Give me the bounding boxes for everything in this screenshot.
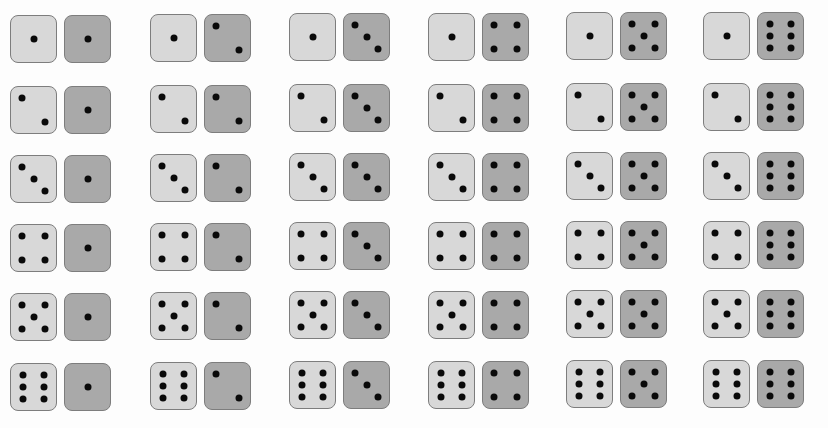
light-die-5 — [566, 290, 613, 338]
dice-pair-1-1 — [10, 15, 114, 65]
pip-icon — [490, 22, 497, 29]
light-die-3 — [428, 153, 475, 201]
pip-icon — [574, 92, 581, 99]
pip-icon — [652, 253, 659, 260]
dark-die-3 — [343, 361, 390, 409]
dice-outcomes-grid — [0, 0, 828, 428]
pip-icon — [490, 323, 497, 330]
pip-icon — [598, 299, 605, 306]
light-die-3 — [703, 152, 750, 200]
pip-icon — [181, 383, 188, 390]
light-die-5 — [703, 290, 750, 338]
pip-icon — [460, 300, 467, 307]
pip-icon — [84, 36, 91, 43]
dark-die-3 — [343, 153, 390, 201]
pip-icon — [490, 116, 497, 123]
pip-icon — [321, 300, 328, 307]
dice-pair-1-6 — [703, 12, 807, 62]
pip-icon — [766, 115, 773, 122]
pip-icon — [640, 104, 647, 111]
pip-icon — [297, 231, 304, 238]
pip-icon — [712, 381, 719, 388]
pip-icon — [375, 185, 382, 192]
pip-icon — [652, 92, 659, 99]
dice-pair-2-4 — [428, 84, 532, 134]
dice-pair-2-3 — [289, 84, 393, 134]
dark-die-3 — [343, 13, 390, 61]
pip-icon — [182, 324, 189, 331]
pip-icon — [321, 323, 328, 330]
pip-icon — [309, 34, 316, 41]
pip-icon — [598, 322, 605, 329]
pip-icon — [652, 369, 659, 376]
pip-icon — [158, 255, 165, 262]
pip-icon — [598, 230, 605, 237]
pip-icon — [490, 370, 497, 377]
pip-icon — [181, 394, 188, 401]
dark-die-5 — [620, 83, 667, 131]
pip-icon — [84, 245, 91, 252]
pip-icon — [298, 382, 305, 389]
dark-die-4 — [482, 361, 529, 409]
dice-pair-3-1 — [10, 155, 114, 205]
pip-icon — [298, 393, 305, 400]
pip-icon — [321, 231, 328, 238]
dark-die-2 — [204, 362, 251, 410]
dice-pair-6-3 — [289, 361, 393, 411]
dice-pair-2-5 — [566, 83, 670, 133]
pip-icon — [652, 392, 659, 399]
pip-icon — [766, 161, 773, 168]
pip-icon — [297, 323, 304, 330]
pip-icon — [363, 312, 370, 319]
pip-icon — [309, 312, 316, 319]
pip-icon — [351, 300, 358, 307]
pip-icon — [652, 161, 659, 168]
dice-pair-1-4 — [428, 13, 532, 63]
dice-pair-5-6 — [703, 290, 807, 340]
pip-icon — [158, 324, 165, 331]
pip-icon — [735, 184, 742, 191]
pip-icon — [766, 299, 773, 306]
pip-icon — [170, 313, 177, 320]
pip-icon — [628, 392, 635, 399]
light-die-6 — [289, 361, 336, 409]
pip-icon — [212, 163, 219, 170]
pip-icon — [460, 116, 467, 123]
pip-icon — [766, 381, 773, 388]
pip-icon — [575, 381, 582, 388]
pip-icon — [297, 300, 304, 307]
pip-icon — [514, 185, 521, 192]
pip-icon — [436, 93, 443, 100]
pip-icon — [652, 115, 659, 122]
pip-icon — [788, 173, 795, 180]
dice-pair-5-3 — [289, 291, 393, 341]
pip-icon — [42, 118, 49, 125]
light-die-1 — [289, 13, 336, 61]
pip-icon — [460, 185, 467, 192]
dice-pair-3-3 — [289, 153, 393, 203]
pip-icon — [735, 253, 742, 260]
pip-icon — [788, 369, 795, 376]
pip-icon — [711, 253, 718, 260]
light-die-4 — [703, 221, 750, 269]
pip-icon — [735, 115, 742, 122]
pip-icon — [723, 33, 730, 40]
pip-icon — [236, 394, 243, 401]
dark-die-2 — [204, 85, 251, 133]
pip-icon — [735, 230, 742, 237]
light-die-1 — [566, 12, 613, 60]
dark-die-4 — [482, 153, 529, 201]
pip-icon — [628, 230, 635, 237]
dice-pair-6-2 — [150, 362, 254, 412]
pip-icon — [436, 254, 443, 261]
pip-icon — [514, 254, 521, 261]
dark-die-6 — [757, 12, 804, 60]
dice-pair-5-5 — [566, 290, 670, 340]
pip-icon — [437, 393, 444, 400]
light-die-2 — [703, 83, 750, 131]
pip-icon — [448, 312, 455, 319]
light-die-3 — [566, 152, 613, 200]
pip-icon — [236, 186, 243, 193]
pip-icon — [514, 393, 521, 400]
pip-icon — [766, 173, 773, 180]
